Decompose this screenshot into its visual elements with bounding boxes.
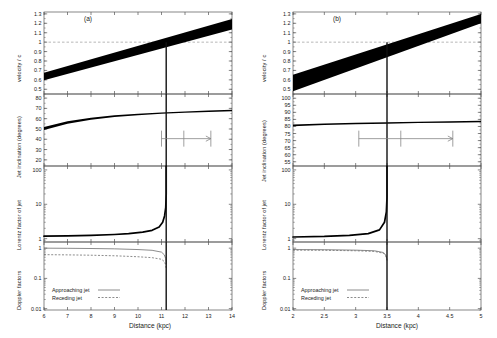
panel-b-lorentz-ylabel: Lorentz factor of jet	[261, 200, 267, 250]
svg-text:0.5: 0.5	[34, 86, 42, 92]
svg-text:100: 100	[33, 167, 42, 173]
svg-text:80: 80	[36, 95, 42, 101]
svg-text:12: 12	[182, 313, 188, 319]
svg-text:0.1: 0.1	[34, 275, 42, 281]
svg-text:100: 100	[282, 167, 291, 173]
panel-a-velocity-ylabel: velocity / c	[16, 55, 22, 82]
svg-text:75: 75	[285, 131, 291, 137]
svg-text:55: 55	[285, 159, 291, 165]
svg-text:Receding jet: Receding jet	[52, 295, 82, 301]
svg-text:20: 20	[36, 157, 42, 163]
figure-root: (a) velocity / c Jet inclination (degree…	[0, 0, 497, 338]
svg-text:3.5: 3.5	[383, 313, 391, 319]
svg-text:1.2: 1.2	[34, 20, 42, 26]
svg-text:0.01: 0.01	[31, 306, 42, 312]
svg-text:10: 10	[36, 201, 42, 207]
svg-text:0.5: 0.5	[283, 86, 291, 92]
svg-text:11: 11	[159, 313, 165, 319]
svg-text:5: 5	[480, 313, 483, 319]
panel-a-xlabel: Distance (kpc)	[70, 322, 230, 329]
panel-a: (a) velocity / c Jet inclination (degree…	[0, 0, 250, 338]
svg-text:0.7: 0.7	[283, 67, 291, 73]
panel-a-lorentz-ylabel: Lorentz factor of jet	[16, 200, 22, 250]
panel-a-inclination-ylabel: Jet inclination (degrees)	[16, 116, 22, 178]
svg-text:1.3: 1.3	[34, 11, 42, 17]
svg-text:4.5: 4.5	[446, 313, 454, 319]
svg-text:1.2: 1.2	[283, 20, 291, 26]
svg-text:60: 60	[36, 116, 42, 122]
svg-text:1: 1	[288, 39, 291, 45]
svg-text:80: 80	[285, 123, 291, 129]
svg-text:6: 6	[43, 313, 46, 319]
svg-text:2: 2	[292, 313, 295, 319]
panel-b: (b) velocity / c Jet inclination (degree…	[247, 0, 497, 338]
svg-text:0.1: 0.1	[283, 275, 291, 281]
svg-text:0.8: 0.8	[34, 58, 42, 64]
svg-text:60: 60	[285, 152, 291, 158]
panel-a-label: (a)	[84, 15, 92, 22]
svg-text:30: 30	[36, 147, 42, 153]
svg-text:70: 70	[285, 138, 291, 144]
svg-text:Approaching jet: Approaching jet	[301, 287, 339, 293]
svg-text:14: 14	[229, 313, 235, 319]
svg-text:0.9: 0.9	[283, 49, 291, 55]
svg-text:50: 50	[36, 126, 42, 132]
svg-text:Receding jet: Receding jet	[301, 295, 331, 301]
svg-text:13: 13	[206, 313, 212, 319]
svg-text:10: 10	[135, 313, 141, 319]
svg-text:95: 95	[285, 102, 291, 108]
panel-b-plot: 0.50.60.70.80.911.11.21.3556065707580859…	[247, 0, 497, 338]
svg-text:70: 70	[36, 105, 42, 111]
panel-b-xlabel: Distance (kpc)	[317, 322, 477, 329]
svg-text:1.3: 1.3	[283, 11, 291, 17]
svg-text:Approaching jet: Approaching jet	[52, 287, 90, 293]
svg-text:9: 9	[113, 313, 116, 319]
svg-text:10: 10	[285, 201, 291, 207]
svg-text:1: 1	[39, 245, 42, 251]
svg-text:0.01: 0.01	[280, 306, 291, 312]
svg-text:0.8: 0.8	[283, 58, 291, 64]
svg-text:2.5: 2.5	[321, 313, 329, 319]
svg-text:7: 7	[66, 313, 69, 319]
svg-text:65: 65	[285, 145, 291, 151]
panel-a-plot: 0.50.60.70.80.911.11.21.3203040506070801…	[0, 0, 250, 338]
svg-text:1: 1	[39, 236, 42, 242]
svg-text:1.1: 1.1	[283, 30, 291, 36]
svg-text:0.6: 0.6	[283, 77, 291, 83]
panel-b-label: (b)	[333, 15, 341, 22]
svg-text:1: 1	[288, 245, 291, 251]
svg-text:1.1: 1.1	[34, 30, 42, 36]
svg-text:0.7: 0.7	[34, 67, 42, 73]
svg-text:0.6: 0.6	[34, 77, 42, 83]
svg-text:4: 4	[417, 313, 420, 319]
svg-text:85: 85	[285, 116, 291, 122]
panel-a-doppler-ylabel: Doppler factors	[16, 271, 22, 310]
svg-text:8: 8	[90, 313, 93, 319]
svg-text:1: 1	[39, 39, 42, 45]
svg-text:3: 3	[354, 313, 357, 319]
svg-text:0.9: 0.9	[34, 49, 42, 55]
panel-b-velocity-ylabel: velocity / c	[261, 55, 267, 82]
panel-b-inclination-ylabel: Jet inclination (degrees)	[261, 120, 267, 182]
svg-text:90: 90	[285, 109, 291, 115]
panel-b-doppler-ylabel: Doppler factors	[261, 271, 267, 310]
svg-text:1: 1	[288, 236, 291, 242]
svg-text:40: 40	[36, 136, 42, 142]
svg-text:100: 100	[282, 95, 291, 101]
